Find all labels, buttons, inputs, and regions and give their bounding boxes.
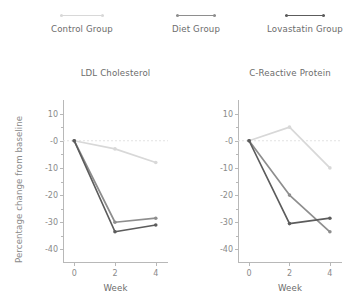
data-point-marker <box>328 230 332 234</box>
data-point-marker <box>288 193 292 197</box>
x-tick-label: 0 <box>247 269 252 278</box>
series-layer <box>238 100 342 263</box>
x-axis-label-c-reactive-protein: Week <box>198 283 361 293</box>
y-tick-label: 10 <box>223 109 233 118</box>
y-tick-label: -20 <box>220 191 233 200</box>
data-point-marker <box>288 125 292 129</box>
chart-title-c-reactive-protein: C-Reactive Protein <box>198 68 361 78</box>
x-tick-mark <box>330 263 331 266</box>
series-line <box>249 141 330 224</box>
y-tick-label: -30 <box>220 218 233 227</box>
x-tick-label: 4 <box>327 269 332 278</box>
series-line <box>249 141 330 232</box>
plot-area-c-reactive-protein: 10-0-10-20-30-40024 <box>238 100 342 263</box>
series-line <box>249 127 330 168</box>
chart-panel-c-reactive-protein: C-Reactive Protein 10-0-10-20-30-40024 W… <box>0 0 361 302</box>
data-point-marker <box>288 222 292 226</box>
x-tick-mark <box>249 263 250 266</box>
y-tick-label: -40 <box>220 245 233 254</box>
data-point-marker <box>328 166 332 170</box>
x-tick-label: 2 <box>287 269 292 278</box>
y-tick-label: -10 <box>220 163 233 172</box>
x-tick-mark <box>289 263 290 266</box>
data-point-marker <box>328 216 332 220</box>
figure-root: Control Group Diet Group Lovastatin Grou… <box>0 0 361 302</box>
data-point-marker <box>247 139 251 143</box>
y-tick-label: -0 <box>225 136 233 145</box>
